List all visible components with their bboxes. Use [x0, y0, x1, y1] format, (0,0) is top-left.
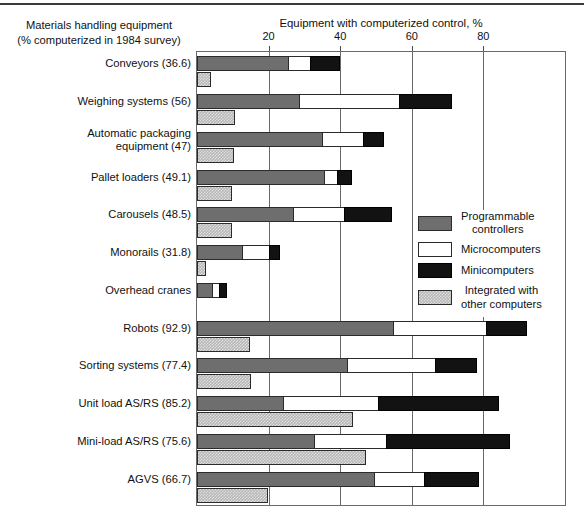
legend-item-integrated-with-other-computers[interactable]: Integrated with other computers [418, 284, 564, 310]
category-label-line1: AGVS (66.7) [5, 473, 191, 487]
category-label-line1: Pallet loaders (49.1) [5, 171, 191, 185]
bar-segment-minicomputers [363, 132, 384, 147]
bar-segment-minicomputers [310, 56, 340, 71]
bar-segment-minicomputers [344, 207, 392, 222]
category-label-robots: Robots (92.9) [5, 322, 191, 336]
bar-segment-microcomputers [374, 472, 425, 487]
bar-segment-microcomputers [324, 170, 338, 185]
legend-swatch-icon [418, 216, 452, 231]
category-label-line1: Monorails (31.8) [5, 246, 191, 260]
category-label-line1: Automatic packaging [5, 127, 191, 141]
bar-segment-programmable-controllers [197, 472, 376, 487]
x-tick-80 [483, 46, 484, 51]
bar-segment-minicomputers [386, 434, 510, 449]
x-tick-20 [269, 46, 270, 51]
category-label-agvs: AGVS (66.7) [5, 473, 191, 487]
legend-swatch-icon [418, 290, 452, 305]
bar-segment-microcomputers [283, 396, 380, 411]
bar-row [197, 434, 565, 449]
legend-item-microcomputers[interactable]: Microcomputers [418, 242, 564, 257]
category-label-unit-load-as-rs: Unit load AS/RS (85.2) [5, 397, 191, 411]
bar-segment-programmable-controllers [197, 321, 395, 336]
bar-segment-minicomputers [378, 396, 499, 411]
bar-segment-integrated [197, 72, 211, 87]
x-tick-label-20: 20 [262, 30, 274, 42]
bar-segment-programmable-controllers [197, 132, 324, 147]
x-axis-title: Equipment with computerized control, % [196, 17, 566, 29]
bar-row [197, 358, 565, 373]
category-label-line1: Weighing systems (56) [5, 95, 191, 109]
y-axis-title: Materials handling equipment (% computer… [8, 18, 190, 47]
legend-item-programmable-controllers[interactable]: Programmable controllers [418, 210, 564, 236]
bar-row [197, 170, 565, 185]
legend-swatch-icon [418, 263, 452, 278]
x-tick-40 [340, 46, 341, 51]
category-label-line1: Overhead cranes [5, 284, 191, 298]
category-label-carousels: Carousels (48.5) [5, 208, 191, 222]
category-label-line1: Robots (92.9) [5, 322, 191, 336]
bar-row [197, 94, 565, 109]
bar-segment-integrated [197, 374, 251, 389]
x-tick-label-40: 40 [334, 30, 346, 42]
bar-segment-programmable-controllers [197, 396, 285, 411]
bar-segment-programmable-controllers [197, 358, 349, 373]
y-axis-title-line1: Materials handling equipment [8, 18, 190, 33]
bar-segment-integrated [197, 110, 235, 125]
bar-segment-minicomputers [424, 472, 480, 487]
bar-segment-minicomputers [486, 321, 527, 336]
bar-segment-programmable-controllers [197, 434, 316, 449]
category-label-sorting-systems: Sorting systems (77.4) [5, 359, 191, 373]
category-label-line1: Carousels (48.5) [5, 208, 191, 222]
top-divider-rule [0, 3, 584, 5]
bar-segment-microcomputers [299, 94, 400, 109]
bar-segment-programmable-controllers [197, 56, 290, 71]
category-label-line1: Conveyors (36.6) [5, 57, 191, 71]
bar-segment-integrated [197, 186, 232, 201]
bar-segment-minicomputers [269, 245, 280, 260]
bar-segment-integrated [197, 450, 366, 465]
bar-row [197, 472, 565, 487]
legend-label: Programmable controllers [461, 210, 534, 236]
bar-segment-integrated [197, 412, 353, 427]
legend-item-minicomputers[interactable]: Minicomputers [418, 263, 564, 278]
bar-row [197, 321, 565, 336]
legend-label: Integrated with other computers [461, 284, 542, 310]
x-tick-label-80: 80 [477, 30, 489, 42]
bar-segment-minicomputers [399, 94, 452, 109]
bar-row [197, 396, 565, 411]
bar-segment-programmable-controllers [197, 245, 244, 260]
bar-segment-integrated [197, 337, 250, 352]
category-label-line1: Unit load AS/RS (85.2) [5, 397, 191, 411]
bar-row [197, 56, 565, 71]
category-label-pallet-loaders: Pallet loaders (49.1) [5, 171, 191, 185]
bar-segment-minicomputers [337, 170, 352, 185]
bar-segment-programmable-controllers [197, 207, 295, 222]
category-label-overhead-cranes: Overhead cranes [5, 284, 191, 298]
x-tick-label-60: 60 [406, 30, 418, 42]
x-tick-60 [412, 46, 413, 51]
bar-segment-microcomputers [347, 358, 436, 373]
chart-legend: Programmable controllersMicrocomputersMi… [418, 210, 564, 317]
bar-segment-microcomputers [314, 434, 387, 449]
bar-segment-integrated [197, 148, 234, 163]
category-label-line1: Sorting systems (77.4) [5, 359, 191, 373]
bar-segment-microcomputers [322, 132, 364, 147]
legend-label: Minicomputers [461, 264, 534, 277]
category-label-line2: equipment (47) [5, 140, 191, 154]
category-label-conveyors: Conveyors (36.6) [5, 57, 191, 71]
bar-segment-programmable-controllers [197, 170, 326, 185]
bar-segment-integrated [197, 223, 232, 238]
bar-segment-microcomputers [242, 245, 270, 260]
bar-segment-microcomputers [393, 321, 487, 336]
category-label-monorails: Monorails (31.8) [5, 246, 191, 260]
chart-figure: Materials handling equipment (% computer… [0, 0, 584, 524]
legend-swatch-icon [418, 242, 452, 257]
bar-segment-integrated [197, 261, 206, 276]
bar-segment-microcomputers [293, 207, 345, 222]
legend-label: Microcomputers [461, 243, 541, 256]
category-label-weighing-systems: Weighing systems (56) [5, 95, 191, 109]
category-label-mini-load-as-rs: Mini-load AS/RS (75.6) [5, 435, 191, 449]
bar-row [197, 132, 565, 147]
category-label-automatic-packaging-equipment: Automatic packagingequipment (47) [5, 127, 191, 154]
category-label-line1: Mini-load AS/RS (75.6) [5, 435, 191, 449]
